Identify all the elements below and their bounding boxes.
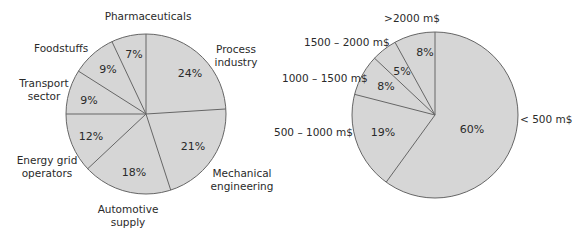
label-energy-grid-operators: Energy gridoperators (14, 154, 80, 180)
label-over-2000: >2000 m$ (372, 12, 452, 25)
pct-transport-sector: 9% (80, 94, 97, 107)
label-mechanical-engineering: Mechanicalengineering (208, 167, 276, 193)
pct-mechanical-engineering: 21% (181, 140, 205, 153)
pie-charts (0, 0, 581, 235)
label-foodstuffs: Foodstuffs (34, 42, 88, 55)
label-transport-sector: Transportsector (14, 77, 74, 103)
pct-1000-1500: 8% (377, 80, 394, 93)
pct-automotive-supply: 18% (122, 166, 146, 179)
pct-energy-grid-operators: 12% (79, 130, 103, 143)
label-automotive-supply: Automotivesupply (96, 203, 160, 229)
pct-foodstuffs: 9% (99, 63, 116, 76)
pct-500-1000: 19% (371, 126, 395, 139)
label-pharmaceuticals: Pharmaceuticals (88, 10, 208, 23)
label-1500-2000: 1500 – 2000 m$ (304, 36, 390, 49)
label-1000-1500: 1000 – 1500 m$ (282, 72, 368, 85)
pct-over-2000: 8% (416, 46, 433, 59)
pct-process-industry: 24% (178, 67, 202, 80)
pct-pharmaceuticals: 7% (125, 48, 142, 61)
pct-under-500: 60% (460, 123, 484, 136)
label-process-industry: Processindustry (210, 43, 262, 69)
pct-1500-2000: 5% (393, 65, 410, 78)
label-500-1000: 500 – 1000 m$ (274, 126, 353, 139)
right-pie-chart (352, 32, 518, 198)
label-under-500: < 500 m$ (520, 113, 572, 126)
